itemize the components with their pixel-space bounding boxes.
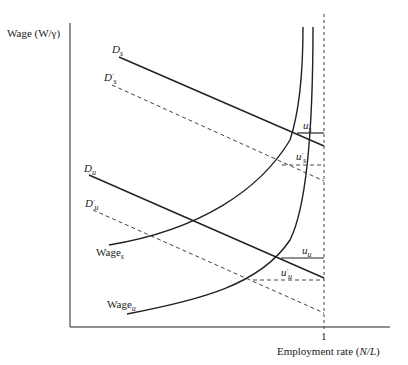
label-Wage-s-main: Wage [96, 246, 121, 258]
label-uu: uu [302, 245, 312, 256]
label-us: us [303, 120, 312, 131]
label-Wage-s: Wages [96, 247, 124, 258]
demand-curve-unskilled [89, 175, 324, 278]
demand-curve-skilled [119, 57, 324, 146]
label-Ds-sub: s [120, 49, 123, 58]
label-uu-sub: u [308, 250, 312, 259]
label-Du-sub: u [92, 168, 96, 177]
label-Ds-main: D [112, 43, 120, 55]
label-Dps-sub: s [113, 77, 116, 86]
label-upu-main: u [281, 266, 287, 278]
label-Dpu-main: D [85, 197, 93, 209]
label-Wage-s-sub: s [121, 252, 124, 261]
x-axis-label: Employment rate (N/L) [277, 346, 380, 357]
y-axis-label-text: Wage (W/γ) [7, 27, 60, 39]
label-Dps-main: D [104, 71, 112, 83]
label-us-main: u [303, 119, 309, 131]
label-Du-main: D [84, 162, 92, 174]
label-Wage-u-sub: u [132, 304, 136, 313]
x-axis-label-var: N/L [359, 345, 376, 357]
label-Dps: D's [104, 72, 117, 83]
label-ups: u's [296, 151, 306, 162]
labor-market-diagram: Wage (W/γ) 1 Employment rate (N/L) Ds D'… [0, 0, 408, 365]
y-axis-label: Wage (W/γ) [7, 28, 60, 39]
label-ups-main: u [296, 150, 302, 162]
label-Wage-u-main: Wage [107, 298, 132, 310]
x-axis-label-suffix: ) [376, 345, 380, 357]
x-tick-label: 1 [321, 331, 327, 342]
label-upu: u'u [281, 267, 292, 278]
diagram-canvas [0, 0, 408, 365]
label-Du: Du [84, 163, 96, 174]
label-uu-main: u [302, 244, 308, 256]
label-us-sub: s [309, 125, 312, 134]
x-axis-label-prefix: Employment rate ( [277, 345, 359, 357]
label-ups-sub: s [303, 156, 306, 165]
label-Dpu-sub: u [94, 203, 98, 212]
label-Ds: Ds [112, 44, 123, 55]
label-Dpu: D'u [85, 198, 98, 209]
label-upu-sub: u [288, 272, 292, 281]
label-Wage-u: Wageu [107, 299, 136, 310]
wage-curve-skilled [109, 27, 303, 245]
